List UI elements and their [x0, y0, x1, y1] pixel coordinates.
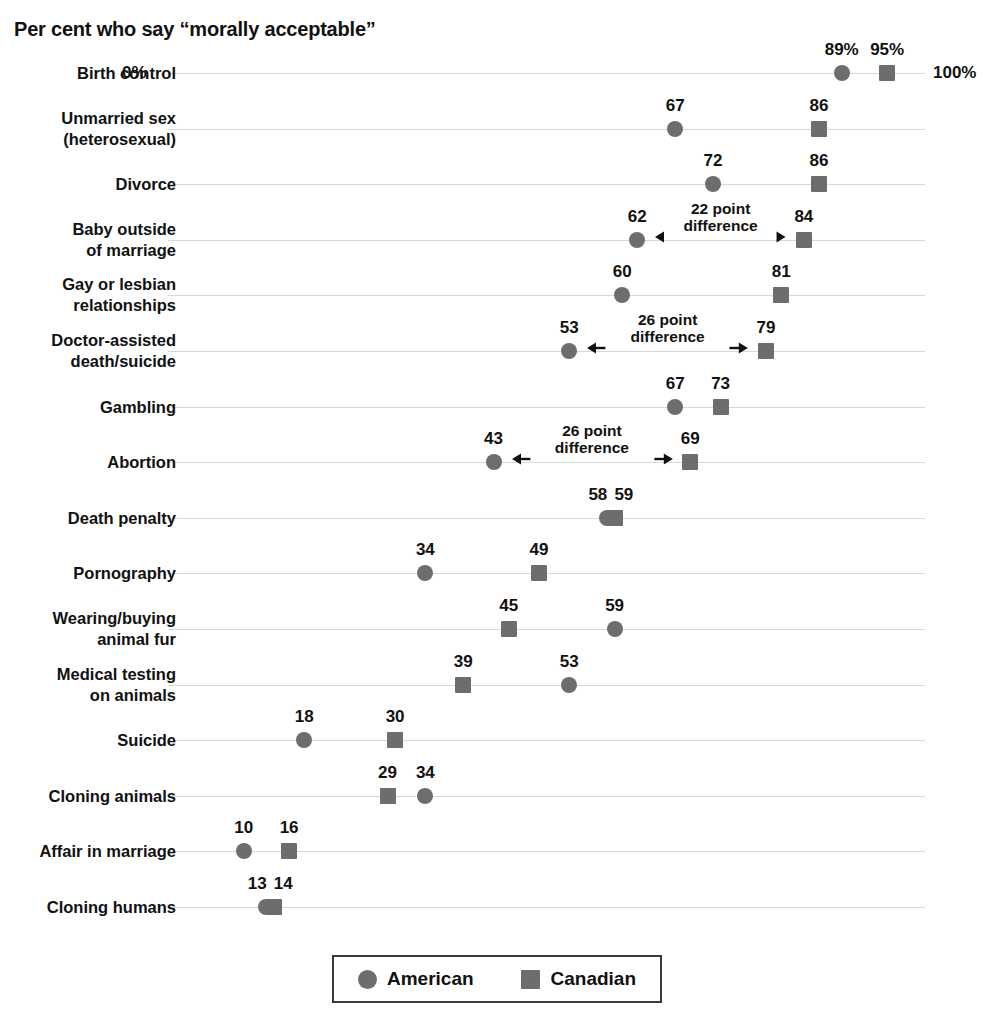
canadian-value-label: 84 — [794, 207, 813, 227]
difference-annotation-line1: 26 point — [555, 422, 629, 439]
american-data-point[interactable] — [705, 176, 721, 192]
canadian-square-marker-icon — [521, 970, 540, 989]
canadian-value-label: 29 — [378, 763, 397, 783]
canadian-value-label: 39 — [454, 652, 473, 672]
row-gridline — [168, 295, 925, 296]
american-circle-marker-icon — [358, 970, 377, 989]
chart-legend: American Canadian — [332, 955, 662, 1003]
american-value-label: 60 — [613, 262, 632, 282]
legend-label-canadian: Canadian — [550, 968, 636, 990]
canadian-data-point[interactable] — [281, 843, 297, 859]
canadian-value-label: 16 — [280, 818, 299, 838]
american-value-label: 67 — [666, 374, 685, 394]
american-data-point[interactable] — [834, 65, 850, 81]
american-data-point[interactable] — [599, 510, 615, 526]
american-data-point[interactable] — [417, 788, 433, 804]
difference-annotation-text: 22 pointdifference — [680, 200, 762, 234]
canadian-value-label: 86 — [810, 151, 829, 171]
canadian-data-point[interactable] — [713, 399, 729, 415]
american-value-label: 58 — [588, 485, 607, 505]
canadian-value-label: 86 — [810, 96, 829, 116]
canadian-value-label: 73 — [711, 374, 730, 394]
american-value-label: 53 — [560, 318, 579, 338]
canadian-value-label: 45 — [499, 596, 518, 616]
canadian-value-label: 59 — [614, 485, 633, 505]
american-data-point[interactable] — [258, 899, 274, 915]
row-gridline — [168, 629, 925, 630]
american-data-point[interactable] — [607, 621, 623, 637]
american-value-label: 10 — [234, 818, 253, 838]
row-gridline — [168, 73, 925, 74]
canadian-data-point[interactable] — [811, 121, 827, 137]
difference-annotation-text: 26 pointdifference — [627, 311, 709, 345]
american-data-point[interactable] — [667, 121, 683, 137]
american-data-point[interactable] — [561, 677, 577, 693]
canadian-data-point[interactable] — [879, 65, 895, 81]
american-data-point[interactable] — [614, 287, 630, 303]
american-value-label: 72 — [704, 151, 723, 171]
row-gridline — [168, 685, 925, 686]
category-label: Divorce — [115, 174, 176, 195]
category-label: Baby outside of marriage — [72, 219, 176, 261]
axis-end-label: 100% — [933, 63, 976, 83]
legend-entry-american: American — [358, 968, 474, 990]
american-data-point[interactable] — [236, 843, 252, 859]
american-value-label: 89% — [825, 40, 859, 60]
category-label: Gambling — [100, 396, 176, 417]
difference-annotation-text: 26 pointdifference — [551, 422, 633, 456]
american-data-point[interactable] — [296, 732, 312, 748]
legend-label-american: American — [387, 968, 474, 990]
canadian-value-label: 14 — [274, 874, 293, 894]
difference-annotation-line2: difference — [684, 217, 758, 234]
american-value-label: 34 — [416, 540, 435, 560]
row-gridline — [168, 796, 925, 797]
canadian-data-point[interactable] — [773, 287, 789, 303]
canadian-value-label: 69 — [681, 429, 700, 449]
category-label: Unmarried sex (heterosexual) — [61, 108, 176, 150]
category-label: Doctor-assisted death/suicide — [51, 330, 176, 372]
canadian-value-label: 49 — [529, 540, 548, 560]
canadian-value-label: 30 — [386, 707, 405, 727]
category-label: Affair in marriage — [39, 841, 176, 862]
row-gridline — [168, 518, 925, 519]
american-value-label: 53 — [560, 652, 579, 672]
category-label: Suicide — [117, 730, 176, 751]
american-value-label: 13 — [248, 874, 267, 894]
category-label: Abortion — [107, 452, 176, 473]
canadian-data-point[interactable] — [455, 677, 471, 693]
difference-annotation-line1: 26 point — [631, 311, 705, 328]
canadian-data-point[interactable] — [501, 621, 517, 637]
category-label: Medical testing on animals — [57, 664, 176, 706]
american-value-label: 59 — [605, 596, 624, 616]
canadian-value-label: 95% — [870, 40, 904, 60]
canadian-data-point[interactable] — [387, 732, 403, 748]
row-gridline — [168, 740, 925, 741]
american-data-point[interactable] — [667, 399, 683, 415]
plot-area: Birth control89%95%0%100%Unmarried sex (… — [0, 0, 994, 940]
dot-plot-chart: Per cent who say “morally acceptable” Bi… — [0, 0, 994, 1030]
category-label: Death penalty — [68, 507, 176, 528]
difference-annotation-line2: difference — [555, 439, 629, 456]
american-value-label: 18 — [295, 707, 314, 727]
axis-start-label: 0% — [122, 63, 147, 83]
category-label: Cloning animals — [49, 785, 176, 806]
canadian-data-point[interactable] — [531, 565, 547, 581]
category-label: Pornography — [73, 563, 176, 584]
canadian-data-point[interactable] — [380, 788, 396, 804]
canadian-value-label: 79 — [757, 318, 776, 338]
legend-entry-canadian: Canadian — [521, 968, 636, 990]
canadian-value-label: 81 — [772, 262, 791, 282]
american-value-label: 43 — [484, 429, 503, 449]
difference-annotation-line1: 22 point — [684, 200, 758, 217]
american-value-label: 34 — [416, 763, 435, 783]
row-gridline — [168, 351, 925, 352]
category-label: Cloning humans — [47, 897, 176, 918]
canadian-data-point[interactable] — [811, 176, 827, 192]
category-label: Wearing/buying animal fur — [53, 608, 176, 650]
row-gridline — [168, 407, 925, 408]
american-value-label: 62 — [628, 207, 647, 227]
category-label: Gay or lesbian relationships — [62, 274, 176, 316]
difference-annotation-line2: difference — [631, 328, 705, 345]
american-value-label: 67 — [666, 96, 685, 116]
american-data-point[interactable] — [417, 565, 433, 581]
